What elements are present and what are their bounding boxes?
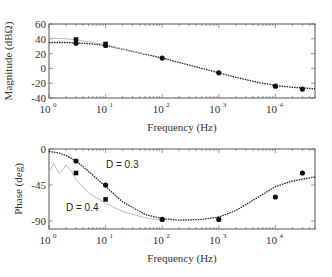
- x-tick-exponent: 4: [279, 101, 283, 109]
- data-point-square: [103, 197, 108, 202]
- x-tick-label: 10: [153, 103, 165, 115]
- data-point-circle: [103, 182, 108, 187]
- y-tick-label: 0: [41, 62, 47, 74]
- x-tick-exponent: 2: [166, 232, 170, 240]
- phase-plot-frame: [49, 149, 315, 229]
- bode-plot: 100101102103104 6040200-20-40 Magnitude …: [0, 0, 332, 277]
- data-point-circle: [216, 217, 221, 222]
- y-tick-label: 0: [41, 143, 47, 155]
- y-tick-label: -20: [31, 77, 46, 89]
- x-tick-exponent: 0: [53, 232, 57, 240]
- x-tick-exponent: 2: [166, 101, 170, 109]
- data-point-circle: [300, 170, 305, 175]
- x-tick-label: 10: [209, 103, 221, 115]
- annotation-d03: D = 0.3: [106, 159, 139, 170]
- magnitude-x-ticks: 100101102103104: [40, 24, 315, 115]
- x-tick-label: 10: [40, 103, 52, 115]
- magnitude-y-axis-label: Magnitude (dBΩ): [2, 21, 15, 100]
- magnitude-x-axis-label: Frequency (Hz): [147, 121, 217, 134]
- data-point-square: [74, 171, 79, 176]
- annotation-d04: D = 0.4: [66, 202, 99, 213]
- x-tick-exponent: 0: [53, 101, 57, 109]
- y-tick-label: 40: [35, 33, 47, 45]
- x-tick-label: 10: [209, 234, 221, 246]
- y-tick-label: 20: [35, 48, 47, 60]
- phase-x-axis-label: Frequency (Hz): [147, 252, 217, 265]
- magnitude-series: [49, 37, 315, 91]
- data-point-circle: [216, 70, 221, 75]
- data-point-square: [74, 37, 79, 42]
- x-tick-exponent: 3: [223, 101, 227, 109]
- data-point-square: [103, 42, 108, 47]
- x-tick-label: 10: [40, 234, 52, 246]
- data-point-circle: [160, 55, 165, 60]
- data-point-circle: [273, 84, 278, 89]
- data-point-circle: [160, 217, 165, 222]
- x-tick-exponent: 1: [110, 101, 114, 109]
- x-tick-exponent: 1: [110, 232, 114, 240]
- x-tick-label: 10: [96, 103, 108, 115]
- x-tick-exponent: 3: [223, 232, 227, 240]
- magnitude-plot: 100101102103104 6040200-20-40 Magnitude …: [2, 18, 315, 134]
- data-point-circle: [73, 158, 78, 163]
- y-tick-label: -90: [31, 215, 46, 227]
- y-tick-label: -40: [31, 92, 46, 104]
- data-point-circle: [300, 87, 305, 92]
- x-tick-exponent: 4: [279, 232, 283, 240]
- phase-y-ticks: 0-45-90: [31, 143, 315, 227]
- x-tick-label: 10: [266, 234, 278, 246]
- phase-y-axis-label: Phase (deg): [12, 163, 25, 215]
- x-tick-label: 10: [266, 103, 278, 115]
- data-point-circle: [273, 194, 278, 199]
- y-tick-label: 60: [35, 18, 47, 30]
- y-tick-label: -45: [31, 179, 46, 191]
- phase-plot: 100101102103104 0-45-90 D = 0.3 D = 0.4 …: [12, 143, 315, 265]
- x-tick-label: 10: [153, 234, 165, 246]
- model-curve-d03: [49, 43, 315, 89]
- x-tick-label: 10: [96, 234, 108, 246]
